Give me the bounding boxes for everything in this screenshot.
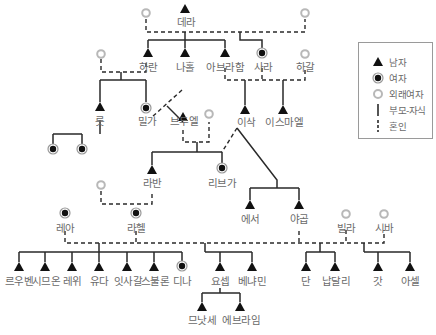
solid-line-icon	[371, 103, 385, 117]
label-naphtali: 납달리	[322, 275, 351, 287]
label-gad: 갓	[373, 275, 383, 287]
male-icon-benjamin	[247, 262, 257, 271]
label-laban: 라반	[143, 177, 162, 189]
foreign-woman-icon	[371, 87, 385, 101]
legend-box: 남자 여자 외래여자 부모-자식 혼인	[358, 42, 433, 139]
male-icon-zebulun	[149, 262, 159, 271]
label-esau: 에서	[241, 213, 260, 225]
male-icon-judah	[94, 262, 104, 271]
female-icon-milcah	[141, 103, 151, 113]
legend-female: 여자	[371, 71, 406, 85]
label-dan: 단	[301, 275, 311, 287]
label-hagar: 하갈	[296, 61, 315, 73]
male-icon-joseph	[215, 262, 225, 271]
label-judah: 유다	[90, 275, 109, 287]
male-icon-naphtali	[330, 262, 340, 271]
male-icon	[371, 55, 385, 69]
male-icon-issachar	[122, 262, 132, 271]
male-icon-laban	[147, 165, 157, 174]
label-bethuel: 브두엘	[170, 115, 199, 127]
male-icon-manasseh	[197, 302, 207, 311]
foreign-woman-icon-bethuel-wife	[205, 110, 213, 118]
label-dinah: 디나	[173, 275, 192, 287]
female-icon-lot-daughter-1	[48, 144, 58, 154]
label-ishmael: 이스마엘	[265, 116, 303, 128]
label-simeon: 시므온	[32, 275, 61, 287]
female-icon-rachel	[131, 208, 141, 218]
label-levi: 레위	[63, 275, 82, 287]
legend-parent-child: 부모-자식	[371, 103, 426, 117]
label-zilpah: 시바	[375, 222, 394, 234]
foreign-woman-icon-terah-wife2	[301, 9, 309, 17]
male-icon-nahor	[180, 48, 190, 57]
label-haran: 하란	[139, 61, 158, 73]
male-icon-lot	[95, 102, 105, 111]
label-asher: 아셀	[401, 275, 420, 287]
male-icon-gad	[373, 262, 383, 271]
label-rebekah: 리브가	[208, 177, 237, 189]
label-issachar: 잇사갈	[114, 275, 143, 287]
female-icon-sarah	[257, 48, 267, 58]
male-icon-esau	[245, 200, 255, 209]
label-ephraim: 에브라임	[222, 314, 260, 326]
foreign-woman-icon-zilpah	[380, 210, 388, 218]
male-icon-isaac	[240, 105, 250, 114]
male-icon-terah	[180, 4, 190, 13]
legend-marriage: 혼인	[371, 119, 406, 133]
label-sarah: 사라	[254, 61, 273, 73]
foreign-woman-icon-haran-wife	[97, 50, 105, 58]
foreign-woman-icon-terah-wife1	[142, 9, 150, 17]
female-icon-lot-daughter-2	[77, 144, 87, 154]
female-icon-leah	[60, 208, 70, 218]
label-joseph: 요셉	[211, 275, 230, 287]
label-milcah: 밀가	[138, 115, 157, 127]
label-nahor: 나홀	[176, 61, 195, 73]
male-icon-simeon	[40, 262, 50, 271]
label-reuben: 르우벤	[5, 275, 34, 287]
label-isaac: 이삭	[237, 116, 256, 128]
male-icon-haran	[143, 48, 153, 57]
legend-foreign-woman: 외래여자	[371, 87, 423, 101]
male-icon-ishmael	[278, 105, 288, 114]
male-icon-levi	[67, 262, 77, 271]
label-benjamin: 베냐민	[238, 275, 267, 287]
label-lot: 롯	[95, 115, 105, 127]
label-manasseh: 므낫세	[188, 314, 217, 326]
label-zebulun: 스불론	[141, 275, 170, 287]
label-jacob: 야곱	[290, 213, 309, 225]
male-icon-dan	[301, 262, 311, 271]
label-terah: 데라	[177, 16, 196, 28]
male-icon-reuben	[14, 262, 24, 271]
legend-male: 남자	[371, 55, 406, 69]
foreign-woman-icon-laban-wife	[97, 181, 105, 189]
male-icon-abraham	[220, 48, 230, 57]
male-icon-ephraim	[235, 302, 245, 311]
female-icon	[371, 71, 385, 85]
foreign-woman-icon-bilhah	[342, 210, 350, 218]
female-icon-dinah	[177, 261, 187, 271]
label-rachel: 라헬	[127, 222, 146, 234]
female-icon-rebekah	[217, 163, 227, 173]
foreign-woman-icon-hagar	[301, 50, 309, 58]
label-bilhah: 빌라	[337, 222, 356, 234]
male-icon-asher	[405, 262, 415, 271]
male-icon-jacob	[294, 200, 304, 209]
label-leah: 레아	[56, 222, 75, 234]
label-abraham: 아브라함	[206, 61, 244, 73]
dashed-line-icon	[371, 119, 385, 133]
